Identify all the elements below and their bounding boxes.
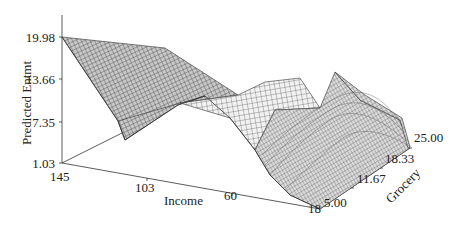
y-tick-5-00: 5.00 bbox=[324, 196, 347, 209]
z-tick-1-03: 1.03 bbox=[5, 157, 55, 170]
surface-left-slope bbox=[62, 37, 238, 140]
z-axis-label: Predicted Entmt bbox=[19, 48, 35, 158]
y-tick-11-67: 11.67 bbox=[357, 172, 386, 185]
z-tick-19-98: 19.98 bbox=[5, 31, 55, 44]
x-tick-145: 145 bbox=[50, 170, 70, 183]
x-axis-label: Income bbox=[164, 194, 203, 207]
x-tick-103: 103 bbox=[135, 181, 155, 194]
x-tick-60: 60 bbox=[224, 189, 237, 202]
y-tick-18-33: 18.33 bbox=[385, 152, 414, 165]
y-tick-25-00: 25.00 bbox=[414, 131, 443, 144]
x-tick-18: 18 bbox=[308, 202, 321, 215]
